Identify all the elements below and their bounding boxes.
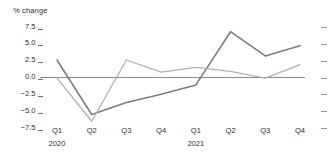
series-group: [57, 32, 300, 122]
data-series-line: [57, 32, 300, 115]
data-series-line: [57, 60, 300, 121]
chart-container: % change 7.55.02.50.0−2.5−5.0−7.5 Q1Q2Q3…: [0, 0, 330, 163]
plot-area: [0, 0, 330, 163]
